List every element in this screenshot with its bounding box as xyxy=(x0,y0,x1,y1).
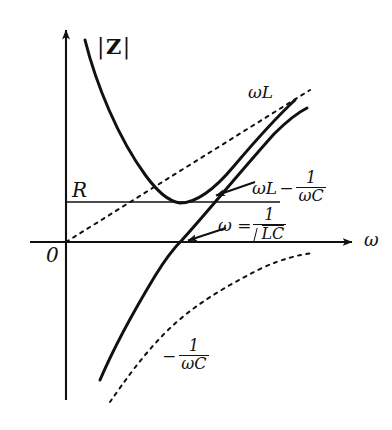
impedance-symbol: Z xyxy=(106,34,122,59)
x-axis-label: ω xyxy=(364,231,379,249)
capacitive-denominator: ωC xyxy=(179,355,208,373)
resonance-frequency-label: ω = 1 LC xyxy=(218,209,287,245)
abs-bar-left: | xyxy=(96,34,106,59)
resonance-denominator: LC xyxy=(253,224,287,243)
resonance-fraction: 1 LC xyxy=(253,207,287,243)
impedance-figure: |Z| R 0 ω ωL ωL− 1 ωC ω = 1 LC − 1 xyxy=(0,0,392,430)
abs-bar-right: | xyxy=(122,34,132,59)
fraction-denominator: ωC xyxy=(296,187,325,205)
capacitive-reactance-curve xyxy=(110,253,312,402)
capacitive-numerator: 1 xyxy=(179,338,208,355)
minus-operator: − xyxy=(277,178,295,198)
net-reactance-pointer-arrow xyxy=(216,182,255,196)
net-reactance-term: ωL xyxy=(252,178,277,198)
capacitive-minus-operator: − xyxy=(160,346,178,366)
square-root-icon: LC xyxy=(255,225,285,243)
origin-label: 0 xyxy=(46,245,59,265)
capacitive-reactance-label: − 1 ωC xyxy=(160,340,210,375)
net-reactance-label: ωL− 1 ωC xyxy=(252,172,327,207)
impedance-magnitude-label: |Z| xyxy=(96,36,132,58)
capacitive-fraction: 1 ωC xyxy=(179,338,208,373)
resonance-equation-lhs: ω = xyxy=(218,215,252,235)
fraction-numerator: 1 xyxy=(296,170,325,187)
resistance-level-label: R xyxy=(72,180,87,200)
reciprocal-omega-c-fraction: 1 ωC xyxy=(296,170,325,205)
inductive-reactance-label: ωL xyxy=(248,84,273,101)
resonance-numerator: 1 xyxy=(253,207,287,224)
radicand: LC xyxy=(262,225,285,243)
